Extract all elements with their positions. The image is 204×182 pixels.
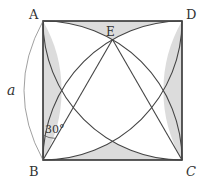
arc-center-b xyxy=(43,21,182,160)
square-abcd xyxy=(43,21,182,160)
arcs xyxy=(43,21,182,160)
arc-center-c xyxy=(43,21,182,160)
arc-center-d xyxy=(43,21,182,160)
label-b-vertex: B xyxy=(29,164,39,179)
shade-bottom xyxy=(43,141,182,160)
shade-right xyxy=(163,21,182,160)
geometry-figure: A D B C E a 30° xyxy=(0,0,204,182)
label-a-vertex: A xyxy=(28,7,39,22)
dimension-arc-a xyxy=(24,21,43,160)
label-side-a: a xyxy=(7,82,15,98)
shaded-regions xyxy=(43,21,182,160)
label-c-vertex: C xyxy=(186,164,196,179)
label-e-point: E xyxy=(106,25,115,39)
label-d-vertex: D xyxy=(186,7,196,22)
label-angle-30: 30° xyxy=(45,123,65,136)
arc-center-a xyxy=(43,21,182,160)
shade-left xyxy=(43,21,62,160)
